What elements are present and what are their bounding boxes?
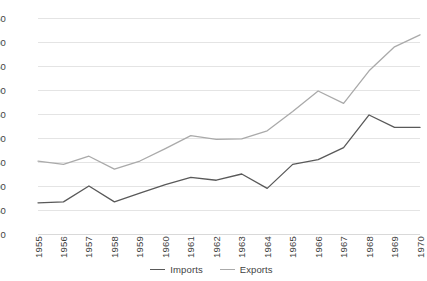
y-axis-tick-label: 150 bbox=[0, 157, 6, 168]
y-axis-tick-label: 350 bbox=[0, 61, 6, 72]
legend-entry-exports[interactable]: Exports bbox=[220, 264, 273, 275]
series-layer bbox=[38, 18, 420, 234]
series-line-exports bbox=[38, 35, 420, 169]
y-axis-tick-label: 0 bbox=[1, 229, 6, 240]
legend-swatch-imports bbox=[150, 269, 165, 270]
chart-legend: Imports Exports bbox=[0, 264, 423, 275]
gridline bbox=[38, 234, 420, 235]
legend-entry-imports[interactable]: Imports bbox=[150, 264, 202, 275]
legend-label-exports: Exports bbox=[240, 264, 273, 275]
legend-swatch-exports bbox=[220, 269, 235, 270]
y-axis-tick-label: 50 bbox=[0, 205, 6, 216]
y-axis-tick-label: 100 bbox=[0, 181, 6, 192]
y-axis-tick-label: 450 bbox=[0, 13, 6, 24]
plot-area bbox=[38, 18, 420, 234]
y-axis-tick-label: 400 bbox=[0, 37, 6, 48]
y-axis-tick-label: 250 bbox=[0, 109, 6, 120]
y-axis-tick-label: 300 bbox=[0, 85, 6, 96]
y-axis-tick-label: 200 bbox=[0, 133, 6, 144]
legend-label-imports: Imports bbox=[170, 264, 202, 275]
